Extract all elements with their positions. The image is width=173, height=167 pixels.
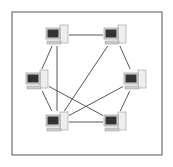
computer-icon [25,69,49,91]
computer-icon [103,24,127,46]
computer-icon [45,24,69,46]
computer-icon [123,69,147,91]
network-diagram [0,0,173,167]
computer-icon [45,111,69,133]
computer-icon [103,111,127,133]
